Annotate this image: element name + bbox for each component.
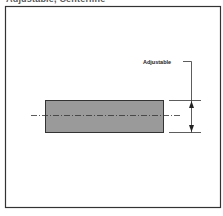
adjustable-label: Adjustable: [143, 59, 171, 65]
adjustable-centerline-diagram: Adjustable: [0, 0, 223, 216]
gray-bar: [46, 101, 164, 133]
